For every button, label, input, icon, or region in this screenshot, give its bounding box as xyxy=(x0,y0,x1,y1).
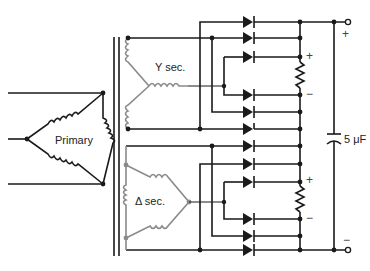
delta-secondary-label: Δ sec. xyxy=(135,195,165,207)
y-secondary-winding: Y sec. xyxy=(126,36,225,132)
diode xyxy=(243,32,254,44)
diode xyxy=(243,230,254,242)
output-terminal-negative xyxy=(345,247,350,252)
diode xyxy=(243,176,254,188)
diode xyxy=(243,213,254,225)
output-plus-label: + xyxy=(342,27,349,41)
primary-label: Primary xyxy=(55,134,93,146)
primary-winding: Primary xyxy=(8,91,115,187)
lower-resistor xyxy=(296,186,304,212)
diode xyxy=(243,140,254,152)
lower-resistor-minus: − xyxy=(306,211,313,225)
output-terminal-positive xyxy=(345,19,350,24)
upper-resistor-plus: + xyxy=(306,49,313,63)
capacitor-label: 5 μF xyxy=(344,133,367,145)
diode xyxy=(243,89,254,101)
lower-resistor-plus: + xyxy=(306,173,313,187)
diode xyxy=(243,16,254,28)
twelve-pulse-rectifier-diagram: Primary Y sec. Δ sec. xyxy=(0,0,370,271)
upper-resistor-minus: − xyxy=(306,87,313,101)
diode xyxy=(243,106,254,118)
transformer-core xyxy=(114,37,119,256)
output-filter: 5 μF + − xyxy=(327,19,367,252)
y-secondary-label: Y sec. xyxy=(155,61,185,73)
primary-coil-right xyxy=(103,93,115,184)
upper-bridge-rectifier: + − xyxy=(198,16,348,146)
diode xyxy=(243,244,254,256)
output-minus-label: − xyxy=(343,233,350,247)
delta-secondary-winding: Δ sec. xyxy=(124,146,225,250)
diode xyxy=(243,51,254,63)
lower-bridge-rectifier: + − xyxy=(198,140,348,256)
upper-resistor xyxy=(296,62,304,88)
diode xyxy=(243,123,254,135)
primary-coil-upper xyxy=(27,93,103,139)
diode xyxy=(243,158,254,170)
